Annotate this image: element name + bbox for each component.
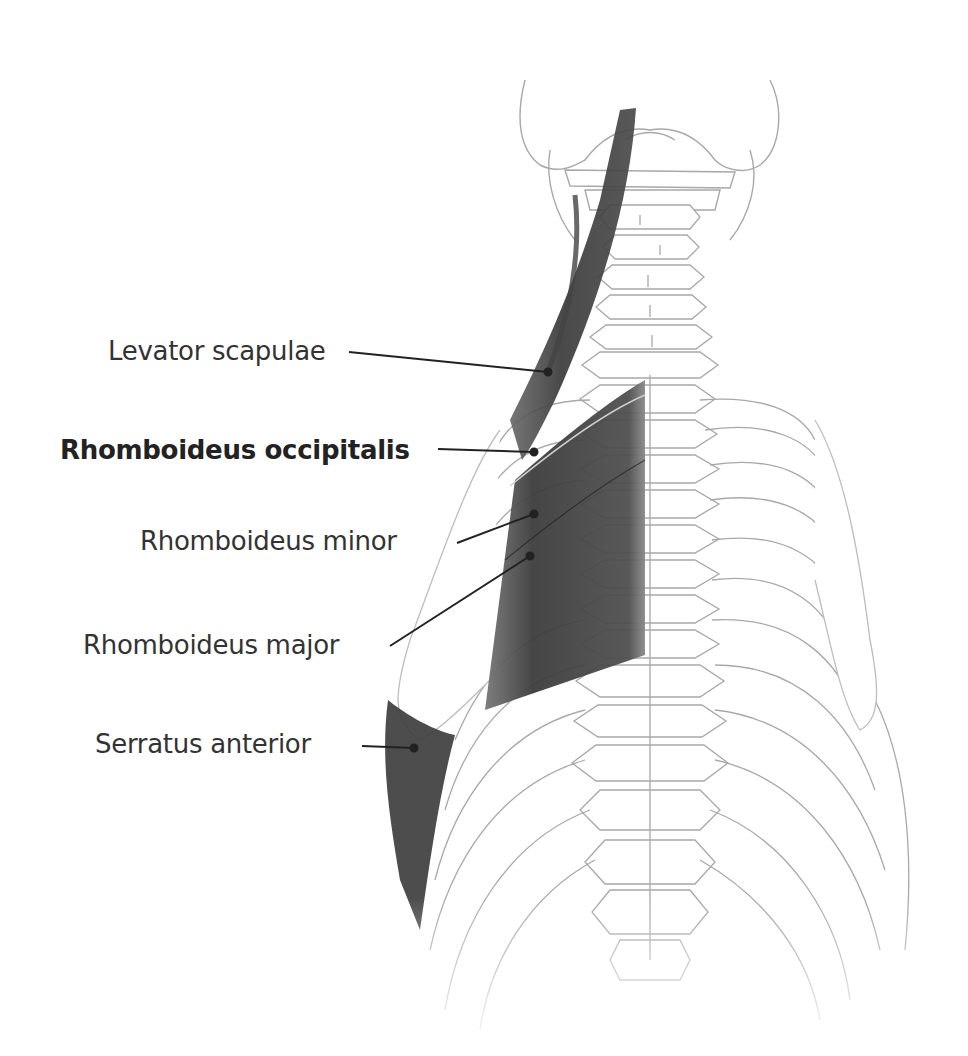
label-rhomboideus-minor: Rhomboideus minor <box>140 528 397 554</box>
label-rhomboideus-major: Rhomboideus major <box>83 632 339 658</box>
label-levator-scapulae: Levator scapulae <box>108 338 326 364</box>
label-rhomboideus-occipitalis: Rhomboideus occipitalis <box>60 437 410 463</box>
label-serratus-anterior: Serratus anterior <box>95 731 311 757</box>
